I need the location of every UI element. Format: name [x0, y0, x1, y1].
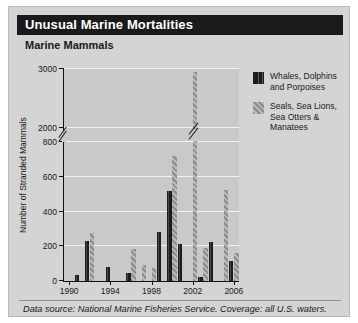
footnote: Data source: National Marine Fisheries S…	[23, 304, 327, 314]
footnote-divider	[19, 300, 341, 301]
y-axis-tick-label: 3000	[38, 64, 57, 74]
x-axis-tick	[110, 281, 111, 285]
bar-seals-2000	[172, 156, 176, 281]
bar-seals-2006	[234, 253, 238, 281]
bar-whales-1994	[106, 267, 110, 281]
y-gridline	[64, 211, 239, 212]
y-axis-tick-label: 2000	[38, 123, 57, 133]
bar-whales-2000	[167, 191, 171, 281]
y-axis-tick	[59, 127, 64, 128]
bar-whales-1991	[75, 275, 79, 281]
legend-item-whales: Whales, Dolphins and Porpoises	[253, 71, 349, 92]
y-axis-tick	[59, 141, 64, 142]
y-axis-tick-label: 600	[43, 172, 57, 182]
x-axis-tick-label: 2006	[224, 286, 243, 296]
legend-label-whales: Whales, Dolphins and Porpoises	[270, 71, 349, 92]
y-axis-tick	[59, 176, 64, 177]
bar-whales-2001	[178, 244, 182, 281]
legend-swatch-seals-icon	[253, 102, 264, 114]
y-gridline	[64, 176, 239, 177]
bar-seals-1992	[90, 233, 94, 281]
bar-seals-2002	[193, 72, 197, 281]
plot-wrapper: 0200400600800200030001990199419982002200…	[9, 7, 351, 318]
bar-whales-2006	[229, 261, 233, 281]
y-axis-tick	[59, 68, 64, 69]
y-axis-tick-label: 0	[52, 276, 57, 286]
plot-area: 0200400600800200030001990199419982002200…	[63, 69, 239, 282]
bar-seals-1996	[131, 249, 135, 281]
x-axis-tick-label: 1998	[142, 286, 161, 296]
y-axis-tick	[59, 211, 64, 212]
bar-seals-1998	[152, 268, 156, 281]
bar-seals-2003	[203, 248, 207, 281]
x-axis-tick-label: 1994	[101, 286, 120, 296]
x-axis-tick	[234, 281, 235, 285]
x-axis-tick-label: 1990	[60, 286, 79, 296]
x-axis-tick	[152, 281, 153, 285]
bar-whales-1992	[85, 241, 89, 281]
y-axis-tick-label: 800	[43, 137, 57, 147]
bar-break-icon-2002	[190, 129, 203, 141]
bar-whales-1996	[126, 273, 130, 281]
legend-item-seals: Seals, Sea Lions, Sea Otters & Manatees	[253, 101, 349, 133]
y-axis-break-icon	[59, 130, 71, 141]
bar-seals-2005	[224, 190, 228, 281]
y-gridline	[64, 68, 239, 69]
y-gridline	[64, 141, 239, 142]
bar-whales-2004	[209, 242, 213, 281]
y-gridline	[64, 127, 239, 128]
legend-swatch-whales-icon	[253, 72, 264, 84]
y-axis-tick-label: 200	[43, 241, 57, 251]
bar-whales-2003	[198, 277, 202, 281]
chart-legend: Whales, Dolphins and Porpoises Seals, Se…	[253, 71, 349, 142]
x-axis-tick-label: 2002	[183, 286, 202, 296]
y-axis-tick	[59, 280, 64, 281]
chart-card: Unusual Marine Mortalities Marine Mammal…	[8, 6, 350, 317]
bar-seals-1997	[142, 265, 146, 281]
bar-whales-1999	[157, 232, 161, 281]
x-axis-tick	[193, 281, 194, 285]
y-axis-tick	[59, 245, 64, 246]
legend-label-seals: Seals, Sea Lions, Sea Otters & Manatees	[270, 101, 349, 133]
y-axis-tick-label: 400	[43, 207, 57, 217]
x-axis-tick	[69, 281, 70, 285]
